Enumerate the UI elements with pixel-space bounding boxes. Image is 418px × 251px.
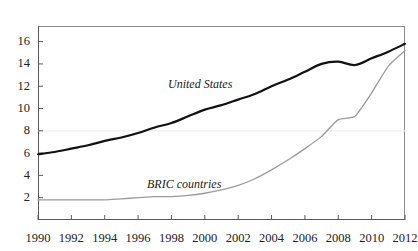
y-tick-label-4: 4 (4, 169, 30, 182)
y-tick-label-8: 8 (4, 124, 30, 137)
series-line-united-states (38, 44, 405, 154)
y-axis-tick-marks (38, 42, 43, 198)
series-line-bric-countries (38, 51, 405, 200)
series-lines (38, 44, 405, 200)
series-label-united-states: United States (168, 78, 232, 90)
series-label-bric-countries: BRIC countries (147, 178, 221, 190)
x-tick-label-2012: 2012 (385, 232, 418, 245)
x-axis-tick-marks (38, 215, 405, 220)
line-chart: 246810121416 199019921994199619982000200… (0, 0, 418, 251)
y-tick-label-14: 14 (4, 57, 30, 70)
y-tick-label-12: 12 (4, 80, 30, 93)
chart-canvas (0, 0, 418, 251)
y-tick-label-2: 2 (4, 191, 30, 204)
y-tick-label-10: 10 (4, 102, 30, 115)
y-tick-label-16: 16 (4, 35, 30, 48)
y-tick-label-6: 6 (4, 147, 30, 160)
